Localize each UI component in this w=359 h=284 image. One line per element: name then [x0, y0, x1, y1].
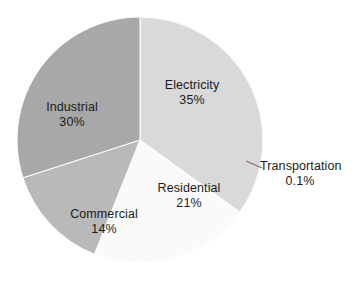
- slice-label-transportation-value: 0.1%: [258, 174, 358, 189]
- slice-label-electricity: Electricity 35%: [146, 78, 238, 109]
- slice-label-residential-name: Residential: [143, 181, 235, 196]
- pie-chart: Electricity 35% Industrial 30% Residenti…: [0, 0, 359, 284]
- slice-label-electricity-value: 35%: [146, 93, 238, 108]
- slice-label-industrial-value: 30%: [26, 115, 118, 130]
- slice-label-industrial: Industrial 30%: [26, 100, 118, 131]
- slice-label-commercial-name: Commercial: [56, 207, 152, 222]
- slice-label-transportation: Transportation 0.1%: [258, 159, 358, 190]
- slice-label-transportation-name: Transportation: [258, 159, 358, 174]
- slice-label-residential: Residential 21%: [143, 181, 235, 212]
- slice-label-residential-value: 21%: [143, 196, 235, 211]
- slice-label-commercial: Commercial 14%: [56, 207, 152, 238]
- slice-label-electricity-name: Electricity: [146, 78, 238, 93]
- pie-chart-canvas: [0, 0, 359, 284]
- slice-label-industrial-name: Industrial: [26, 100, 118, 115]
- slice-label-commercial-value: 14%: [56, 222, 152, 237]
